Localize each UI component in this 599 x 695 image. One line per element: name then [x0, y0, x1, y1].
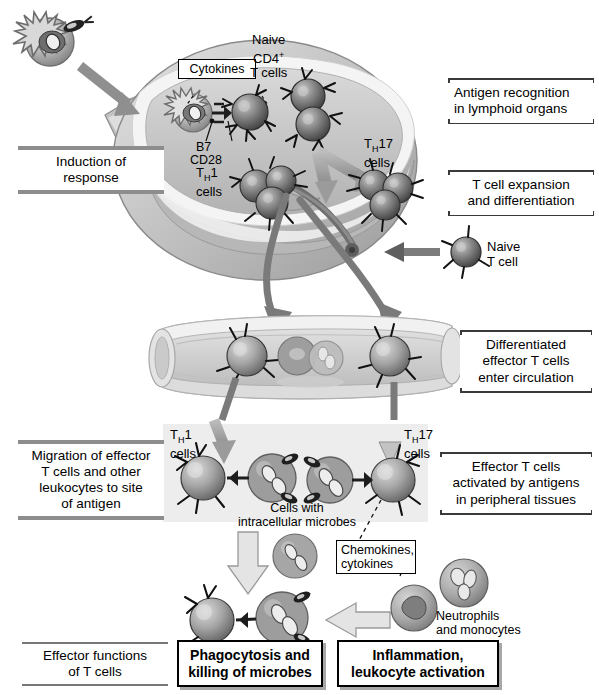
bracket-rule-bottom: [448, 123, 594, 125]
th1-cells-label-node: TH1cells: [196, 166, 222, 200]
th1-cells-label-tissue: TH1cells: [170, 428, 196, 462]
outcome-box-phagocytosis: Phagocytosis and killing of microbes: [177, 640, 323, 687]
stage-label-text: Migration of effector T cells and other …: [18, 444, 164, 516]
outcome-box-inflammation: Inflammation, leukocyte activation: [337, 640, 499, 687]
bracket-bar-bottom: [18, 516, 164, 520]
bracket-rule-bottom: [440, 513, 592, 515]
b7-label: B7: [196, 140, 211, 154]
bracket-rule-top: [448, 78, 594, 80]
stage-induction-of-response: Induction of response: [18, 146, 164, 194]
stage-migration-of-effector-t-cells: Migration of effector T cells and other …: [18, 440, 164, 520]
naive-t-cell-label: Naive T cell: [487, 240, 520, 269]
stage-effector-functions: Effector functions of T cells: [22, 642, 168, 686]
cells-with-microbes-label: Cells with intracellular microbes: [222, 501, 372, 529]
bracket-rule-bottom: [448, 215, 594, 217]
bracket-rule-bottom: [460, 391, 592, 393]
stage-antigen-recognition: Antigen recognition in lymphoid organs: [448, 78, 594, 124]
figure-canvas: Cytokines NaiveCD4+T cells B7 CD28 TH1ce…: [0, 0, 599, 695]
stage-label-text: Effector functions of T cells: [22, 644, 168, 684]
bracket-rule-top: [448, 170, 594, 172]
bracket-bar-bottom: [18, 190, 164, 194]
stage-label-text: Effector T cells activated by antigens i…: [440, 454, 592, 514]
stage-label-text: Differentiated effector T cells enter ci…: [460, 332, 592, 392]
stage-differentiated-effector-t-cells: Differentiated effector T cells enter ci…: [460, 330, 592, 393]
th17-cells-label-tissue: TH17cells: [404, 428, 433, 462]
stage-effector-t-cells-activated: Effector T cells activated by antigens i…: [440, 452, 592, 515]
chemokines-cytokines-callout: Chemokines, cytokines: [336, 540, 416, 574]
bracket-bar-bottom: [22, 684, 168, 686]
naive-cd4-t-cells-label: NaiveCD4+T cells: [250, 33, 287, 81]
stage-label-text: Induction of response: [18, 150, 164, 190]
stage-label-text: T cell expansion and differentiation: [448, 172, 594, 215]
stage-label-text: Antigen recognition in lymphoid organs: [448, 80, 594, 123]
th17-cells-label-node: TH17cells: [364, 137, 393, 171]
bracket-rule-top: [440, 452, 592, 454]
bracket-rule-top: [460, 330, 592, 332]
cytokines-callout: Cytokines: [178, 59, 256, 79]
stage-t-cell-expansion: T cell expansion and differentiation: [448, 170, 594, 216]
neutrophils-monocytes-label: Neutrophils and monocytes: [436, 609, 521, 637]
